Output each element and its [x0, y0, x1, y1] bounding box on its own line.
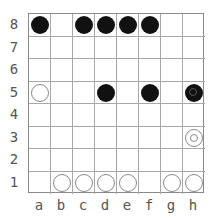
square-b7[interactable] — [51, 37, 73, 60]
square-a6[interactable] — [29, 59, 51, 82]
row-label-8: 8 — [6, 16, 22, 32]
square-a2[interactable] — [29, 149, 51, 172]
square-c4[interactable] — [73, 104, 95, 127]
square-c2[interactable] — [73, 149, 95, 172]
column-label-f: f — [138, 197, 160, 213]
square-e7[interactable] — [117, 37, 139, 60]
square-b4[interactable] — [51, 104, 73, 127]
square-f3[interactable] — [139, 127, 161, 150]
square-h4[interactable] — [183, 104, 205, 127]
square-e6[interactable] — [117, 59, 139, 82]
square-d7[interactable] — [95, 37, 117, 60]
square-h1[interactable] — [183, 172, 205, 195]
square-c7[interactable] — [73, 37, 95, 60]
square-d4[interactable] — [95, 104, 117, 127]
square-g7[interactable] — [161, 37, 183, 60]
row-label-7: 7 — [6, 39, 22, 55]
square-c6[interactable] — [73, 59, 95, 82]
square-h8[interactable] — [183, 14, 205, 37]
square-a7[interactable] — [29, 37, 51, 60]
row-label-5: 5 — [6, 84, 22, 100]
white-piece-icon[interactable] — [75, 174, 93, 192]
black-piece-icon[interactable] — [119, 16, 137, 34]
square-h5[interactable] — [183, 82, 205, 105]
square-h2[interactable] — [183, 149, 205, 172]
square-d8[interactable] — [95, 14, 117, 37]
square-a3[interactable] — [29, 127, 51, 150]
square-g8[interactable] — [161, 14, 183, 37]
column-label-e: e — [116, 197, 138, 213]
black-piece-icon[interactable] — [31, 16, 49, 34]
game-board[interactable] — [28, 13, 204, 193]
square-c5[interactable] — [73, 82, 95, 105]
column-label-h: h — [182, 197, 204, 213]
white-piece-icon[interactable] — [185, 174, 203, 192]
square-f8[interactable] — [139, 14, 161, 37]
square-g2[interactable] — [161, 149, 183, 172]
column-label-c: c — [72, 197, 94, 213]
square-c1[interactable] — [73, 172, 95, 195]
square-b8[interactable] — [51, 14, 73, 37]
square-g3[interactable] — [161, 127, 183, 150]
white-piece-icon[interactable] — [53, 174, 71, 192]
square-a1[interactable] — [29, 172, 51, 195]
column-label-a: a — [28, 197, 50, 213]
white-piece-icon[interactable] — [185, 129, 203, 147]
row-label-3: 3 — [6, 129, 22, 145]
square-b3[interactable] — [51, 127, 73, 150]
square-e5[interactable] — [117, 82, 139, 105]
black-piece-icon[interactable] — [75, 16, 93, 34]
square-f6[interactable] — [139, 59, 161, 82]
square-d1[interactable] — [95, 172, 117, 195]
row-label-6: 6 — [6, 61, 22, 77]
square-e1[interactable] — [117, 172, 139, 195]
square-e4[interactable] — [117, 104, 139, 127]
square-c3[interactable] — [73, 127, 95, 150]
square-e3[interactable] — [117, 127, 139, 150]
square-h3[interactable] — [183, 127, 205, 150]
square-d3[interactable] — [95, 127, 117, 150]
black-piece-icon[interactable] — [97, 84, 115, 102]
square-e2[interactable] — [117, 149, 139, 172]
row-label-4: 4 — [6, 106, 22, 122]
square-c8[interactable] — [73, 14, 95, 37]
square-b6[interactable] — [51, 59, 73, 82]
square-f7[interactable] — [139, 37, 161, 60]
square-f5[interactable] — [139, 82, 161, 105]
square-a5[interactable] — [29, 82, 51, 105]
row-label-2: 2 — [6, 151, 22, 167]
black-piece-icon[interactable] — [97, 16, 115, 34]
square-g6[interactable] — [161, 59, 183, 82]
black-piece-icon[interactable] — [185, 84, 203, 102]
column-label-b: b — [50, 197, 72, 213]
white-piece-icon[interactable] — [163, 174, 181, 192]
row-label-1: 1 — [6, 174, 22, 190]
white-piece-icon[interactable] — [31, 84, 49, 102]
square-b1[interactable] — [51, 172, 73, 195]
marker-ring-icon — [190, 134, 198, 142]
black-piece-icon[interactable] — [141, 16, 159, 34]
square-b2[interactable] — [51, 149, 73, 172]
square-f4[interactable] — [139, 104, 161, 127]
square-g5[interactable] — [161, 82, 183, 105]
square-h7[interactable] — [183, 37, 205, 60]
square-d2[interactable] — [95, 149, 117, 172]
square-d6[interactable] — [95, 59, 117, 82]
square-g4[interactable] — [161, 104, 183, 127]
square-b5[interactable] — [51, 82, 73, 105]
black-piece-icon[interactable] — [141, 84, 159, 102]
square-d5[interactable] — [95, 82, 117, 105]
square-f2[interactable] — [139, 149, 161, 172]
column-label-g: g — [160, 197, 182, 213]
square-a8[interactable] — [29, 14, 51, 37]
column-label-d: d — [94, 197, 116, 213]
square-e8[interactable] — [117, 14, 139, 37]
square-h6[interactable] — [183, 59, 205, 82]
square-f1[interactable] — [139, 172, 161, 195]
square-g1[interactable] — [161, 172, 183, 195]
white-piece-icon[interactable] — [119, 174, 137, 192]
square-a4[interactable] — [29, 104, 51, 127]
white-piece-icon[interactable] — [97, 174, 115, 192]
marker-ring-icon — [189, 88, 197, 96]
